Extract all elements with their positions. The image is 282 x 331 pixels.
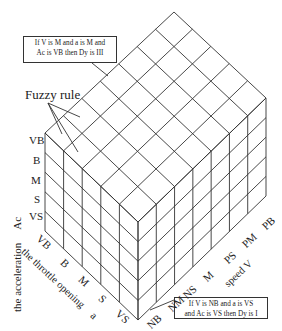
acceleration-level-vb: VB [29, 135, 44, 146]
rule-bottom-line1: If V is NB and a is VS [177, 299, 265, 309]
top-grid-line [174, 12, 266, 98]
acceleration-level-vs: VS [29, 211, 43, 222]
top-grid-line [119, 64, 211, 151]
acceleration-level-s: S [34, 194, 40, 205]
right-face-horizontal-line [138, 98, 266, 222]
left-face-horizontal-line [45, 192, 138, 281]
left-face-horizontal-line [45, 133, 138, 222]
rule-box-top: If V is M and a is M and Ac is VB then D… [23, 36, 117, 63]
top-grid-line [137, 47, 229, 134]
rule-top-line1: If V is M and a is M and [26, 38, 114, 48]
acceleration-level-m: M [31, 175, 41, 186]
rule-bottom-line2: and Ac is VS then Dy is I [177, 309, 265, 319]
top-grid-line [100, 81, 193, 169]
top-grid-line [101, 64, 229, 187]
fuzzy-rule-pointer [48, 103, 78, 152]
rule-top-line2: Ac is VB then Dy is III [26, 48, 114, 58]
rule-top-pointer [92, 63, 108, 76]
left-face-horizontal-line [45, 172, 138, 261]
top-grid-line [63, 116, 156, 205]
acceleration-axis-symbol: Ac [11, 217, 23, 230]
acceleration-axis-title: the acceleration Ac [12, 217, 23, 312]
top-grid-line [156, 29, 248, 115]
top-grid-line [119, 81, 247, 204]
acceleration-level-b: B [33, 155, 40, 166]
fuzzy-rule-label: Fuzzy rule [25, 88, 80, 101]
top-grid-line [82, 46, 211, 168]
top-grid-line [45, 12, 174, 133]
top-grid-line [82, 98, 175, 186]
right-face-horizontal-line [138, 118, 266, 242]
left-face-horizontal-line [45, 153, 138, 242]
